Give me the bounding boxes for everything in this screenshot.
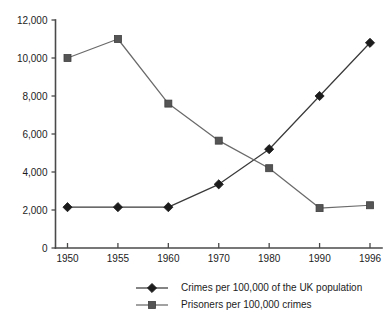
y-axis-tick-label: 12,000 bbox=[17, 15, 48, 26]
x-axis-tick-label: 1970 bbox=[208, 253, 231, 264]
x-axis-tick-label: 1955 bbox=[107, 253, 130, 264]
x-axis: 1950195519601970198019901996 bbox=[56, 243, 383, 264]
diamond-marker bbox=[214, 180, 223, 189]
legend-label: Prisoners per 100,000 crimes bbox=[181, 299, 312, 310]
x-axis-tick-label: 1950 bbox=[56, 253, 79, 264]
square-marker bbox=[165, 100, 172, 107]
square-marker bbox=[64, 55, 71, 62]
x-axis-tick-label: 1990 bbox=[308, 253, 331, 264]
diamond-marker bbox=[147, 283, 156, 292]
x-axis-ticks: 1950195519601970198019901996 bbox=[56, 243, 381, 264]
y-axis-tick-label: 6,000 bbox=[22, 129, 47, 140]
square-marker bbox=[114, 36, 121, 43]
diamond-marker bbox=[113, 203, 122, 212]
data-series-layer bbox=[63, 36, 375, 212]
legend-label: Crimes per 100,000 of the UK population bbox=[181, 282, 362, 293]
chart-legend: Crimes per 100,000 of the UK populationP… bbox=[136, 282, 362, 310]
legend-item: Prisoners per 100,000 crimes bbox=[136, 299, 312, 310]
y-axis-tick-label: 8,000 bbox=[22, 91, 47, 102]
square-marker bbox=[316, 205, 323, 212]
series-crimes bbox=[63, 38, 375, 212]
legend-item: Crimes per 100,000 of the UK population bbox=[136, 282, 362, 293]
square-marker bbox=[149, 302, 156, 309]
x-axis-tick-label: 1996 bbox=[359, 253, 382, 264]
square-marker bbox=[215, 137, 222, 144]
diamond-marker bbox=[63, 203, 72, 212]
diamond-marker bbox=[164, 203, 173, 212]
square-marker bbox=[266, 165, 273, 172]
y-axis: 02,0004,0006,0008,00010,00012,000 bbox=[17, 15, 56, 254]
line-chart: 02,0004,0006,0008,00010,00012,000 195019… bbox=[0, 0, 390, 322]
y-axis-tick-label: 4,000 bbox=[22, 167, 47, 178]
chart-container: 02,0004,0006,0008,00010,00012,000 195019… bbox=[0, 0, 390, 322]
y-axis-tick-label: 10,000 bbox=[17, 53, 48, 64]
y-axis-ticks: 02,0004,0006,0008,00010,00012,000 bbox=[17, 15, 56, 254]
y-axis-tick-label: 2,000 bbox=[22, 205, 47, 216]
square-marker bbox=[367, 202, 374, 209]
x-axis-tick-label: 1960 bbox=[157, 253, 180, 264]
y-axis-tick-label: 0 bbox=[42, 243, 48, 254]
x-axis-tick-label: 1980 bbox=[258, 253, 281, 264]
